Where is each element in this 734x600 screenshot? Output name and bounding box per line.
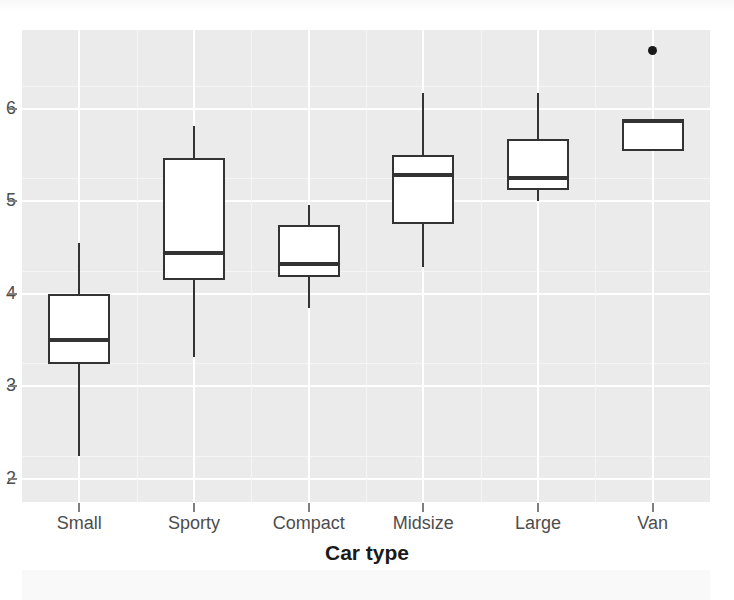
box-iqr bbox=[622, 121, 684, 152]
y-tick-mark bbox=[8, 293, 17, 295]
x-tick-label-van: Van bbox=[583, 513, 723, 534]
x-tick-mark bbox=[308, 503, 310, 512]
y-tick-mark bbox=[8, 478, 17, 480]
median-line bbox=[622, 119, 684, 123]
x-tick-mark bbox=[652, 503, 654, 512]
x-tick-mark bbox=[78, 503, 80, 512]
x-tick-mark bbox=[537, 503, 539, 512]
scan-artifact-top bbox=[0, 0, 734, 12]
scan-artifact-bottom bbox=[22, 570, 710, 600]
boxplot-figure: Gallons per 100 miles 23456SmallSportyCo… bbox=[0, 14, 734, 574]
x-tick-mark bbox=[422, 503, 424, 512]
y-tick-mark bbox=[8, 385, 17, 387]
plot-panel bbox=[22, 30, 710, 502]
x-axis-title: Car type bbox=[0, 541, 734, 565]
y-tick-mark bbox=[8, 108, 17, 110]
boxplot-van[interactable] bbox=[22, 30, 710, 502]
outlier-point bbox=[648, 46, 657, 55]
y-tick-mark bbox=[8, 200, 17, 202]
x-tick-mark bbox=[193, 503, 195, 512]
